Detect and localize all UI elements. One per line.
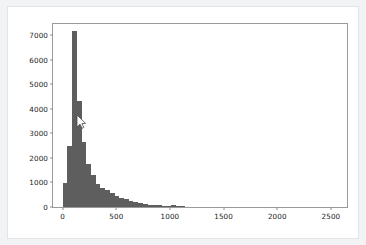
y-tick-mark <box>50 84 53 85</box>
x-tick-mark <box>116 207 117 210</box>
x-tick-mark <box>330 207 331 210</box>
x-tick-mark <box>277 207 278 210</box>
y-tick-mark <box>50 35 53 36</box>
matplotlib-figure: 0100020003000400050006000700005001000150… <box>8 7 358 238</box>
histogram-bars[interactable] <box>53 24 347 207</box>
y-tick-mark <box>50 59 53 60</box>
y-tick-mark <box>50 157 53 158</box>
figure-card: 0100020003000400050006000700005001000150… <box>7 6 359 239</box>
y-tick-mark <box>50 182 53 183</box>
y-tick-mark <box>50 133 53 134</box>
y-tick-mark <box>50 207 53 208</box>
x-tick-mark <box>169 207 170 210</box>
screenshot-root: 0100020003000400050006000700005001000150… <box>0 0 366 245</box>
y-tick-mark <box>50 108 53 109</box>
histogram-bar <box>181 206 186 207</box>
chart-axes: 0100020003000400050006000700005001000150… <box>52 23 348 208</box>
x-tick-mark <box>62 207 63 210</box>
x-tick-mark <box>223 207 224 210</box>
